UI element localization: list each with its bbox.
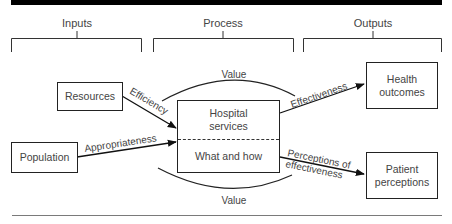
section-brackets [12, 31, 442, 52]
node-patient-perceptions: Patient perceptions [366, 152, 438, 199]
node-resources: Resources [57, 82, 123, 111]
diagram: Inputs Process Outputs Value Value Effic… [0, 0, 452, 224]
value-label-top: Value [222, 69, 247, 80]
bottom-rule [12, 215, 442, 216]
value-label-bottom: Value [222, 195, 247, 206]
node-what-and-how: What and how [178, 139, 279, 172]
node-hospital: Hospital services What and how [177, 100, 280, 173]
effectiveness-label: Effectiveness [289, 80, 349, 110]
node-health-outcomes: Health outcomes [366, 62, 438, 109]
value-arc-top [162, 80, 295, 101]
node-hospital-services: Hospital services [178, 101, 279, 140]
node-population: Population [11, 142, 78, 173]
